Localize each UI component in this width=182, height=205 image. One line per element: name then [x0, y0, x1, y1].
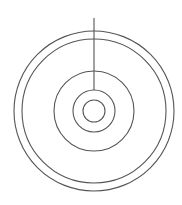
concentric-circles-diagram — [0, 0, 182, 205]
fourth-ring — [73, 90, 115, 132]
inner-ring — [83, 100, 105, 122]
